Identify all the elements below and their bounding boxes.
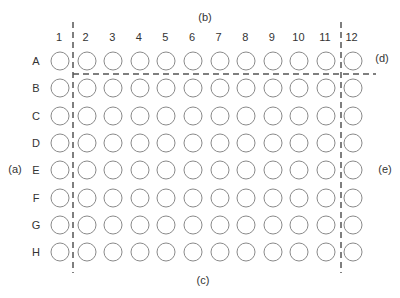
well-C1 <box>51 106 70 125</box>
well-H7 <box>210 243 229 262</box>
well-G12 <box>343 215 362 234</box>
column-label-4: 4 <box>136 31 142 43</box>
well-H9 <box>263 243 282 262</box>
well-D12 <box>343 133 362 152</box>
well-E2 <box>77 161 96 180</box>
well-A10 <box>290 52 309 71</box>
well-D9 <box>263 133 282 152</box>
well-G9 <box>263 215 282 234</box>
well-E3 <box>104 161 123 180</box>
well-A2 <box>77 52 96 71</box>
well-B2 <box>77 79 96 98</box>
well-A6 <box>184 52 203 71</box>
well-H8 <box>237 243 256 262</box>
well-D1 <box>51 133 70 152</box>
well-G1 <box>51 215 70 234</box>
well-B10 <box>290 79 309 98</box>
well-B5 <box>157 79 176 98</box>
well-A4 <box>130 52 149 71</box>
well-B9 <box>263 79 282 98</box>
row-label-F: F <box>33 192 40 204</box>
well-H12 <box>343 243 362 262</box>
well-H11 <box>317 243 336 262</box>
well-A5 <box>157 52 176 71</box>
well-D10 <box>290 133 309 152</box>
well-C3 <box>104 106 123 125</box>
well-C10 <box>290 106 309 125</box>
well-H4 <box>130 243 149 262</box>
well-E1 <box>51 161 70 180</box>
row-label-C: C <box>32 110 40 122</box>
well-B8 <box>237 79 256 98</box>
well-E9 <box>263 161 282 180</box>
well-H5 <box>157 243 176 262</box>
well-F8 <box>237 188 256 207</box>
well-B7 <box>210 79 229 98</box>
well-E10 <box>290 161 309 180</box>
well-G3 <box>104 215 123 234</box>
well-H6 <box>184 243 203 262</box>
well-B11 <box>317 79 336 98</box>
row-label-E: E <box>32 164 39 176</box>
well-A12 <box>343 52 362 71</box>
well-F2 <box>77 188 96 207</box>
row-label-D: D <box>32 137 40 149</box>
column-label-5: 5 <box>162 31 168 43</box>
well-G7 <box>210 215 229 234</box>
well-G5 <box>157 215 176 234</box>
well-F10 <box>290 188 309 207</box>
well-A9 <box>263 52 282 71</box>
well-G2 <box>77 215 96 234</box>
well-F11 <box>317 188 336 207</box>
well-H1 <box>51 243 70 262</box>
well-F3 <box>104 188 123 207</box>
well-C11 <box>317 106 336 125</box>
column-label-6: 6 <box>189 31 195 43</box>
well-G11 <box>317 215 336 234</box>
well-plate-diagram: (b) (c) (a) (d) (e) 123456789101112 ABCD… <box>0 0 400 298</box>
well-D8 <box>237 133 256 152</box>
row-label-H: H <box>32 246 40 258</box>
well-F6 <box>184 188 203 207</box>
column-label-7: 7 <box>216 31 222 43</box>
row-label-G: G <box>32 219 41 231</box>
well-D2 <box>77 133 96 152</box>
column-label-3: 3 <box>109 31 115 43</box>
well-D3 <box>104 133 123 152</box>
well-F7 <box>210 188 229 207</box>
well-E8 <box>237 161 256 180</box>
well-C9 <box>263 106 282 125</box>
well-F4 <box>130 188 149 207</box>
well-D7 <box>210 133 229 152</box>
well-A3 <box>104 52 123 71</box>
well-C5 <box>157 106 176 125</box>
well-G6 <box>184 215 203 234</box>
well-A7 <box>210 52 229 71</box>
column-label-8: 8 <box>242 31 248 43</box>
well-B6 <box>184 79 203 98</box>
well-A11 <box>317 52 336 71</box>
well-E11 <box>317 161 336 180</box>
annotation-e: (e) <box>378 163 391 175</box>
annotation-c: (c) <box>197 274 210 286</box>
well-C7 <box>210 106 229 125</box>
well-B12 <box>343 79 362 98</box>
well-B1 <box>51 79 70 98</box>
well-F5 <box>157 188 176 207</box>
well-B3 <box>104 79 123 98</box>
well-F1 <box>51 188 70 207</box>
well-C8 <box>237 106 256 125</box>
well-F12 <box>343 188 362 207</box>
column-label-9: 9 <box>269 31 275 43</box>
well-D5 <box>157 133 176 152</box>
well-H2 <box>77 243 96 262</box>
well-C6 <box>184 106 203 125</box>
well-E12 <box>343 161 362 180</box>
row-label-A: A <box>32 55 39 67</box>
well-E7 <box>210 161 229 180</box>
annotation-b: (b) <box>198 11 211 23</box>
well-C2 <box>77 106 96 125</box>
well-C12 <box>343 106 362 125</box>
well-H3 <box>104 243 123 262</box>
column-label-10: 10 <box>292 31 304 43</box>
